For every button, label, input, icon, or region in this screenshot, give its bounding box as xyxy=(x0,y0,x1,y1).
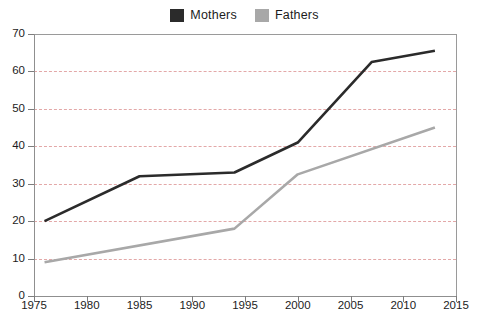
series-line-mothers xyxy=(45,51,435,221)
line-chart: Mothers Fathers 010203040506070 19751980… xyxy=(0,0,489,325)
series-line-fathers xyxy=(45,128,435,263)
series-layer xyxy=(0,0,489,325)
